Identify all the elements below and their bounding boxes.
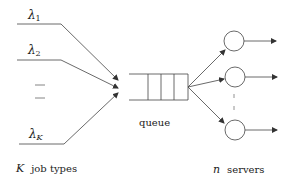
arrival-stream-2 [17,60,118,88]
server-n [225,120,277,140]
queue-label: queue [139,117,170,128]
lambda-symbol: λ [29,127,37,141]
servers-text: servers [227,164,264,175]
lambda-1-label: λ1 [28,8,41,23]
queue-buffer [129,74,188,100]
lambda-subscript: 2 [36,49,41,58]
ellipsis-dashes [35,85,45,98]
job-types-variable: K [16,162,24,175]
server-1 [224,31,276,51]
lambda-subscript: K [37,133,43,142]
queueing-diagram [0,0,291,187]
servers-label: n servers [213,163,264,176]
dispatch-arrows [188,50,225,123]
server-2 [225,67,277,87]
lambda-subscript: 1 [36,14,41,23]
job-types-text: job types [31,163,77,174]
lambda-K-label: λK [29,127,43,142]
lambda-2-label: λ2 [28,43,41,58]
lambda-symbol: λ [28,8,36,22]
job-types-label: K job types [16,162,77,175]
lambda-symbol: λ [28,43,36,57]
servers-variable: n [213,163,220,176]
